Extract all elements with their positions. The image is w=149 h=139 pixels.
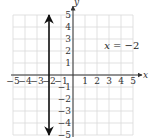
y-tick-label: −4 xyxy=(58,118,72,128)
y-tick-label: −3 xyxy=(58,106,72,116)
axes xyxy=(11,6,142,137)
equation-label: x = −2 xyxy=(104,40,139,51)
x-tick-label: 5 xyxy=(130,76,136,86)
y-axis-label: y xyxy=(73,0,80,7)
y-tick-label: −5 xyxy=(58,130,72,139)
y-tick-label: 5 xyxy=(65,10,71,20)
x-tick-label: 1 xyxy=(82,76,88,86)
x-axis-label: x xyxy=(143,70,148,80)
x-tick-label: 3 xyxy=(106,76,112,86)
x-tick-label: 2 xyxy=(94,76,100,86)
y-tick-label: 1 xyxy=(65,58,71,68)
coordinate-plane: −5−4−3−2−11234554321−1−2−3−4−5 x = −2 x … xyxy=(0,0,149,139)
y-tick-label: 2 xyxy=(65,46,71,56)
y-tick-label: 4 xyxy=(65,22,71,32)
y-tick-label: −1 xyxy=(58,82,71,92)
annotations: x = −2 xyxy=(104,40,139,51)
x-tick-label: 4 xyxy=(118,76,124,86)
y-tick-label: 3 xyxy=(65,34,71,44)
y-tick-label: −2 xyxy=(58,94,71,104)
